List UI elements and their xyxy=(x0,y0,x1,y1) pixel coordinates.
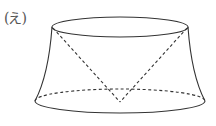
bottom-ellipse-back-hidden xyxy=(35,89,205,101)
solid-of-revolution-diagram xyxy=(0,0,216,126)
cone-left-edge-hidden xyxy=(53,28,120,102)
right-profile-curve xyxy=(188,27,205,101)
top-ellipse xyxy=(52,17,188,37)
bottom-ellipse-front xyxy=(35,101,205,113)
cone-right-edge-hidden xyxy=(120,28,187,102)
left-profile-curve xyxy=(35,27,52,101)
